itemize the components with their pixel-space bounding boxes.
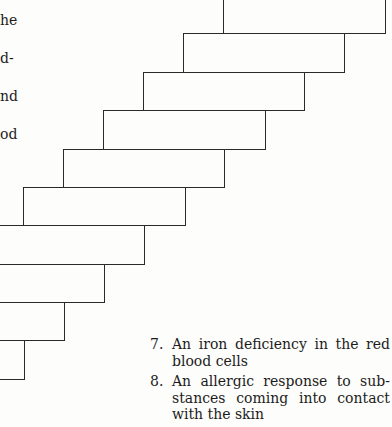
- item-number: 8.: [150, 373, 172, 423]
- stair-box-7: [0, 225, 145, 265]
- stair-box-4: [103, 110, 266, 150]
- item-text: An iron deficiency in the red blood cell…: [172, 336, 390, 369]
- item-text: An allergic response to sub-stances comi…: [172, 373, 390, 423]
- item-number: 7.: [150, 336, 172, 369]
- text-fragment: od: [0, 126, 17, 142]
- stair-box-6: [23, 187, 186, 226]
- stair-box-9: [0, 302, 65, 341]
- stair-box-5: [63, 149, 225, 188]
- list-item-7: 7. An iron deficiency in the red blood c…: [150, 336, 390, 369]
- definition-list: 7. An iron deficiency in the red blood c…: [150, 336, 390, 427]
- text-fragment: d-: [0, 50, 14, 66]
- stair-box-1: [223, 0, 386, 34]
- stair-box-2: [183, 33, 345, 73]
- text-fragment: nd: [0, 88, 18, 104]
- text-fragment: he: [0, 12, 17, 28]
- stair-box-8: [0, 264, 105, 303]
- list-item-8: 8. An allergic response to sub-stances c…: [150, 373, 390, 423]
- stair-box-3: [143, 72, 305, 111]
- stair-box-10: [0, 340, 25, 380]
